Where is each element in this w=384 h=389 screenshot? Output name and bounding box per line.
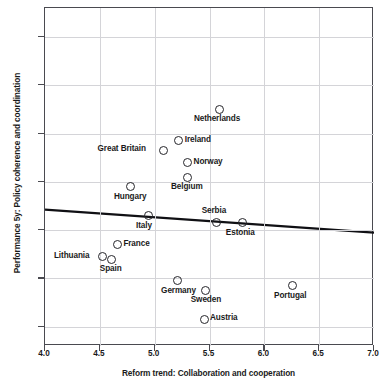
data-point-marker — [144, 211, 153, 220]
x-axis-tick-label: 7.0 — [356, 349, 384, 358]
data-point-label: Great Britain — [98, 144, 146, 153]
gridline-vertical — [264, 8, 265, 346]
data-point-marker — [183, 173, 192, 182]
data-point-marker — [201, 286, 210, 295]
data-point-marker — [288, 281, 297, 290]
gridline-vertical — [155, 8, 156, 346]
data-point-label: Portugal — [274, 291, 306, 300]
x-axis-label: Reform trend: Collaboration and cooperat… — [44, 368, 373, 378]
x-axis-tick-label: 5.5 — [192, 349, 226, 358]
data-point-marker — [183, 158, 192, 167]
data-point-label: Ireland — [185, 135, 211, 144]
data-point-marker — [215, 105, 224, 114]
gridline-vertical — [100, 8, 101, 346]
data-point-label: Spain — [100, 264, 122, 273]
data-point-marker — [113, 240, 122, 249]
data-point-label: Serbia — [202, 206, 226, 215]
data-point-label: Italy — [136, 221, 152, 230]
x-axis-tick-label: 6.5 — [301, 349, 335, 358]
y-axis-tick-mark — [38, 36, 44, 37]
y-axis-tick-mark — [38, 326, 44, 327]
data-point-label: Austria — [210, 313, 238, 322]
data-point-marker — [159, 146, 168, 155]
data-point-marker — [98, 252, 107, 261]
x-axis-tick-label: 5.0 — [137, 349, 171, 358]
data-point-marker — [107, 255, 116, 264]
x-axis-tick-label: 6.0 — [246, 349, 280, 358]
data-point-label: France — [123, 239, 149, 248]
data-point-label: Estonia — [226, 228, 255, 237]
y-axis-tick-mark — [38, 133, 44, 134]
y-axis-label: Performance 5y: Policy coherence and coo… — [12, 63, 22, 283]
data-point-label: Netherlands — [194, 114, 240, 123]
data-point-marker — [173, 276, 182, 285]
data-point-label: Hungary — [114, 192, 147, 201]
data-point-label: Sweden — [191, 295, 221, 304]
data-point-label: Germany — [161, 286, 196, 295]
data-point-marker — [212, 218, 221, 227]
gridline-vertical — [319, 8, 320, 346]
scatter-plot-figure: Performance 5y: Policy coherence and coo… — [0, 0, 384, 389]
y-axis-tick-mark — [38, 181, 44, 182]
data-point-marker — [238, 218, 247, 227]
data-point-marker — [200, 315, 209, 324]
data-point-label: Belgium — [171, 182, 203, 191]
x-axis-tick-label: 4.0 — [27, 349, 61, 358]
y-axis-tick-mark — [38, 229, 44, 230]
data-point-label: Norway — [194, 157, 223, 166]
x-axis-tick-label: 4.5 — [82, 349, 116, 358]
y-axis-tick-mark — [38, 84, 44, 85]
data-point-marker — [126, 182, 135, 191]
data-point-marker — [174, 136, 183, 145]
y-axis-tick-mark — [38, 277, 44, 278]
plot-area — [44, 7, 373, 345]
data-point-label: Lithuania — [54, 251, 90, 260]
